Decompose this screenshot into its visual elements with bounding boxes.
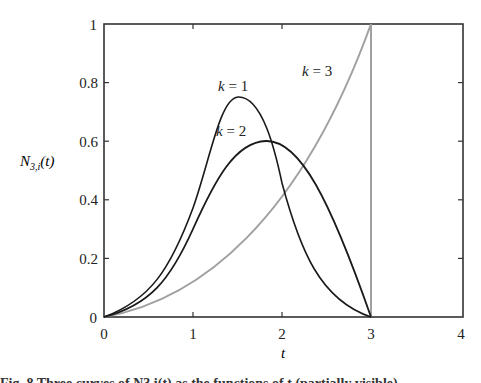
bspline-basis-chart: 0 1 2 3 4 0 0.2 0.4 0.6 0.8 1 N3,i(t) t … (0, 0, 481, 383)
label-k1: k = 1 (218, 78, 248, 94)
plot-frame (104, 24, 463, 317)
x-tick-3: 3 (367, 326, 375, 342)
y-axis-label: N3,i(t) (19, 153, 54, 172)
figure-caption: Fig. 8 Three curves of N3,i(t) as the fu… (0, 373, 481, 383)
x-tick-2: 2 (278, 326, 286, 342)
label-k3: k = 3 (302, 63, 332, 79)
x-axis-label: t (281, 345, 286, 361)
y-tick-0: 0 (90, 310, 98, 326)
y-tick-0.8: 0.8 (79, 75, 98, 91)
x-tick-0: 0 (100, 326, 108, 342)
y-tick-0.6: 0.6 (79, 134, 98, 150)
label-k2: k = 2 (216, 123, 246, 139)
x-tick-4: 4 (457, 326, 465, 342)
x-tick-1: 1 (189, 326, 197, 342)
x-ticks (193, 24, 371, 317)
y-tick-0.2: 0.2 (79, 251, 98, 267)
y-tick-0.4: 0.4 (79, 192, 98, 208)
y-tick-1: 1 (90, 17, 98, 33)
y-ticks (104, 83, 463, 259)
